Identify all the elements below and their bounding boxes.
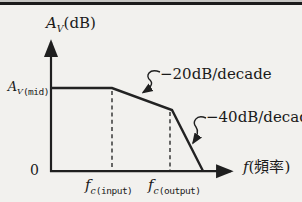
bode-plot-figure: AV(dB) AV(mid) 0 −20dB/decade −40dB/deca… <box>0 0 302 202</box>
slope-40db-annotation: −40dB/decade <box>206 110 302 125</box>
x-axis-title: f(頻率) <box>243 160 290 175</box>
mid-gain-symbol: A <box>8 79 17 94</box>
slope-20db-callout-arrow <box>143 71 160 93</box>
fc-output-subscript-qualifier: (output) <box>159 185 201 196</box>
y-axis-title-unit: (dB) <box>64 14 96 32</box>
mid-gain-subscript-qualifier: (mid) <box>23 86 49 97</box>
fc-output-tick-label: fc(output) <box>148 178 201 195</box>
slope-40db-callout-arrow <box>193 117 206 143</box>
gain-response-curve <box>51 88 203 171</box>
origin-tick-label: 0 <box>30 163 39 177</box>
y-axis-title-symbol: A <box>46 14 57 32</box>
x-axis-title-unit: (頻率) <box>249 158 291 176</box>
y-axis-title-subscript: V <box>57 23 64 34</box>
y-axis-title: AV(dB) <box>46 16 96 33</box>
slope-20db-annotation: −20dB/decade <box>160 67 272 82</box>
fc-input-tick-label: fc(input) <box>85 178 132 195</box>
mid-gain-tick-label: AV(mid) <box>4 80 49 96</box>
fc-input-subscript-qualifier: (input) <box>96 185 133 196</box>
